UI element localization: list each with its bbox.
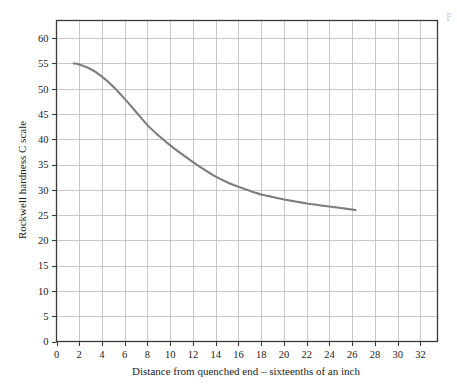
x-tick-label: 14 bbox=[210, 349, 221, 360]
x-tick-label: 22 bbox=[301, 349, 312, 360]
x-axis-tick-labels: 02468101214161820222426283032 bbox=[54, 349, 426, 360]
y-tick-label: 50 bbox=[38, 84, 49, 95]
x-tick-label: 2 bbox=[77, 349, 82, 360]
x-tick-label: 30 bbox=[392, 349, 403, 360]
x-tick-label: 0 bbox=[54, 349, 59, 360]
x-tick-label: 4 bbox=[99, 349, 105, 360]
x-tick-label: 16 bbox=[233, 349, 244, 360]
x-axis-title: Distance from quenched end – sixteenths … bbox=[132, 365, 360, 377]
x-tick-label: 32 bbox=[415, 349, 426, 360]
y-tick-label: 15 bbox=[38, 260, 49, 271]
figure-root: 02468101214161820222426283032 0510152025… bbox=[0, 0, 457, 389]
y-tick-label: 55 bbox=[38, 58, 49, 69]
y-tick-label: 0 bbox=[43, 336, 48, 347]
y-tick-label: 30 bbox=[38, 185, 49, 196]
x-tick-label: 26 bbox=[347, 349, 358, 360]
x-tick-label: 18 bbox=[256, 349, 267, 360]
y-axis-tick-labels: 051015202530354045505560 bbox=[38, 33, 49, 347]
x-tick-label: 12 bbox=[188, 349, 199, 360]
y-tick-label: 10 bbox=[38, 286, 49, 297]
x-tick-label: 10 bbox=[165, 349, 176, 360]
y-axis-title: Rockwell hardness C scale bbox=[16, 121, 28, 239]
x-tick-label: 6 bbox=[122, 349, 127, 360]
x-tick-label: 8 bbox=[145, 349, 150, 360]
y-tick-label: 20 bbox=[38, 235, 49, 246]
y-tick-label: 5 bbox=[43, 311, 48, 322]
jominy-hardenability-chart: 02468101214161820222426283032 0510152025… bbox=[0, 0, 457, 389]
x-tick-label: 20 bbox=[279, 349, 290, 360]
y-tick-label: 60 bbox=[38, 33, 49, 44]
y-tick-label: 45 bbox=[38, 109, 49, 120]
corner-caption-fragment: F bbox=[446, 11, 453, 23]
x-tick-label: 24 bbox=[324, 349, 335, 360]
y-tick-label: 35 bbox=[38, 159, 49, 170]
plot-background bbox=[57, 21, 438, 342]
y-tick-label: 25 bbox=[38, 210, 49, 221]
x-tick-label: 28 bbox=[370, 349, 381, 360]
y-tick-label: 40 bbox=[38, 134, 49, 145]
